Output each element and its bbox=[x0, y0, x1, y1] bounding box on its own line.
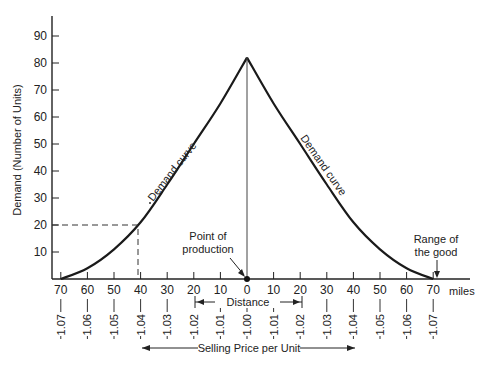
x-tick-label: 60 bbox=[400, 283, 414, 297]
price-tick-label: 1.06 bbox=[81, 314, 93, 335]
y-tick-label: 50 bbox=[34, 137, 48, 151]
range-of-good-label-1: Range of bbox=[414, 233, 460, 245]
price-tick-label: 1.01 bbox=[214, 314, 226, 335]
left-label-dot bbox=[149, 202, 151, 204]
price-tick-label: 1.02 bbox=[294, 314, 306, 335]
x-tick-label: 40 bbox=[347, 283, 361, 297]
y-tick-label: 10 bbox=[34, 245, 48, 259]
y-tick-label: 20 bbox=[34, 218, 48, 232]
right-demand-curve-label: Demand curve bbox=[298, 132, 349, 197]
x-tick-label: 50 bbox=[373, 283, 387, 297]
x-tick-label: 30 bbox=[320, 283, 334, 297]
y-tick-label: 90 bbox=[34, 29, 48, 43]
y-tick-label: 70 bbox=[34, 83, 48, 97]
point-of-production-label-1: Point of bbox=[189, 230, 227, 242]
range-of-good-label-2: the good bbox=[415, 246, 458, 258]
production-arrowhead bbox=[238, 269, 245, 277]
x-tick-label: 70 bbox=[427, 283, 441, 297]
price-tick-label: 1.04 bbox=[135, 314, 147, 335]
x-tick-label: 20 bbox=[187, 283, 201, 297]
price-tick-label: 1.02 bbox=[188, 314, 200, 335]
y-tick-label: 40 bbox=[34, 164, 48, 178]
price-tick-label: 1.04 bbox=[347, 314, 359, 335]
y-tick-label: 60 bbox=[34, 110, 48, 124]
x-tick-label: 50 bbox=[107, 283, 121, 297]
x-tick-label: 30 bbox=[161, 283, 175, 297]
price-tick-label: 1.06 bbox=[401, 314, 413, 335]
x-tick-label: 20 bbox=[294, 283, 308, 297]
y-axis-label: Demand (Number of Units) bbox=[11, 84, 23, 215]
x-tick-label: 60 bbox=[81, 283, 95, 297]
y-tick-label: 80 bbox=[34, 56, 48, 70]
price-tick-label: 1.03 bbox=[321, 314, 333, 335]
selling-price-label: Selling Price per Unit bbox=[198, 342, 301, 354]
demand-cone-chart: 102030405060708090 706050403020100102030… bbox=[0, 0, 482, 367]
x-tick-label: 70 bbox=[54, 283, 68, 297]
range-arrowhead bbox=[434, 271, 440, 278]
price-tick-label: 1.00 bbox=[241, 314, 253, 335]
price-tick-label: 1.01 bbox=[268, 314, 280, 335]
reference-dashed-line bbox=[52, 225, 138, 279]
x-tick-label: 40 bbox=[134, 283, 148, 297]
price-tick-label: 1.07 bbox=[55, 314, 67, 335]
y-tick-label: 30 bbox=[34, 191, 48, 205]
price-tick-label: 1.03 bbox=[161, 314, 173, 335]
price-tick-label: 1.05 bbox=[374, 314, 386, 335]
left-demand-curve-label: Demand curve bbox=[145, 139, 199, 203]
miles-unit-label: miles bbox=[449, 285, 475, 297]
distance-label: Distance bbox=[227, 296, 270, 308]
point-of-production-label-2: production bbox=[182, 243, 233, 255]
price-tick-label: 1.05 bbox=[108, 314, 120, 335]
axes bbox=[52, 16, 470, 279]
price-tick-label: 1.07 bbox=[427, 314, 439, 335]
